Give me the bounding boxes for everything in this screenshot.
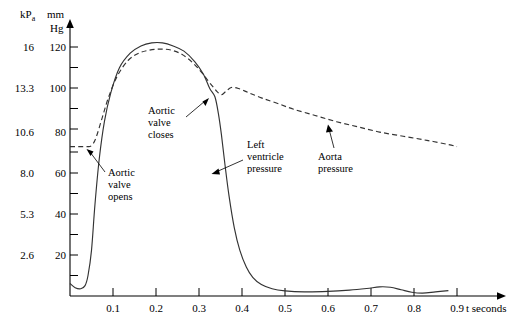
- x-axis-label: t seconds: [466, 302, 507, 314]
- annotation-left-ventricle-pressure: Left ventricle pressure: [247, 139, 284, 174]
- aorta-pressure-curve: [70, 49, 457, 147]
- x-axis-arrowhead: [497, 292, 506, 300]
- ytick-mmhg-120: 120: [50, 41, 67, 53]
- leader-aortic-valve-closes: [186, 101, 205, 117]
- xtick-0.9: 0.9: [450, 302, 464, 314]
- y-tick-marks: [70, 47, 78, 276]
- ytick-kpa-13.3: 13.3: [15, 82, 35, 94]
- ytick-kpa-16: 16: [23, 41, 35, 53]
- annotation-aortic-valve-closes: Aortic valve closes: [148, 105, 175, 140]
- xtick-0.2: 0.2: [149, 302, 163, 314]
- xtick-0.8: 0.8: [407, 302, 421, 314]
- left-ventricle-line3: pressure: [247, 163, 282, 174]
- xtick-0.3: 0.3: [192, 302, 206, 314]
- xtick-0.4: 0.4: [235, 302, 249, 314]
- xtick-0.7: 0.7: [364, 302, 378, 314]
- arrowhead-aortic-valve-closes: [203, 98, 210, 106]
- leader-left-ventricle-pressure: [216, 160, 243, 172]
- annotation-aorta-pressure: Aorta pressure: [318, 151, 353, 174]
- y-axis-arrowhead: [66, 19, 74, 28]
- arrowhead-aorta-pressure: [326, 125, 333, 133]
- aortic-valve-closes-line1: Aortic: [148, 105, 175, 116]
- aorta-pressure-line2: pressure: [318, 163, 353, 174]
- ytick-mmhg-80: 80: [55, 126, 67, 138]
- axis-group: [66, 19, 506, 300]
- y-axis-unit-mm: mm: [47, 8, 65, 20]
- pressure-time-chart: kPa mm Hg 16 13.3 10.6 8.0 5.3 2.6 120 1…: [0, 0, 509, 328]
- ytick-kpa-5.3: 5.3: [20, 208, 34, 220]
- aortic-valve-opens-line2: valve: [108, 179, 131, 190]
- xtick-0.6: 0.6: [321, 302, 335, 314]
- arrowhead-left-ventricle-pressure: [212, 169, 221, 175]
- aortic-valve-opens-line3: opens: [108, 191, 133, 202]
- ytick-mmhg-40: 40: [55, 208, 67, 220]
- ytick-mmhg-100: 100: [50, 82, 67, 94]
- annotation-leaders: [87, 98, 335, 175]
- left-ventricle-line2: ventricle: [247, 151, 284, 162]
- aortic-valve-closes-line2: valve: [148, 117, 171, 128]
- xtick-0.5: 0.5: [278, 302, 292, 314]
- aortic-valve-opens-line1: Aortic: [108, 167, 135, 178]
- ytick-mmhg-60: 60: [55, 167, 67, 179]
- leader-aortic-valve-opens: [90, 152, 105, 172]
- ytick-mmhg-20: 20: [55, 249, 67, 261]
- annotation-aortic-valve-opens: Aortic valve opens: [108, 167, 135, 202]
- y-axis-unit-kpa: kPa: [20, 8, 36, 23]
- y-axis-unit-hg: Hg: [50, 22, 64, 34]
- left-ventricle-line1: Left: [247, 139, 265, 150]
- xtick-0.1: 0.1: [106, 302, 120, 314]
- ytick-kpa-10.6: 10.6: [15, 126, 35, 138]
- ytick-kpa-8.0: 8.0: [20, 167, 34, 179]
- chart-svg: kPa mm Hg 16 13.3 10.6 8.0 5.3 2.6 120 1…: [0, 0, 509, 328]
- aorta-pressure-line1: Aorta: [318, 151, 342, 162]
- x-tick-marks: [113, 288, 457, 296]
- ytick-kpa-2.6: 2.6: [20, 249, 34, 261]
- aortic-valve-closes-line3: closes: [148, 129, 174, 140]
